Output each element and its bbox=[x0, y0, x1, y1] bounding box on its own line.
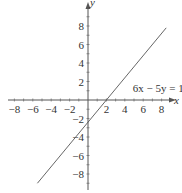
y-tick-label: −8 bbox=[72, 168, 84, 180]
y-tick-label: −4 bbox=[72, 131, 84, 143]
x-tick-label: −4 bbox=[45, 103, 57, 115]
axes bbox=[8, 2, 176, 190]
x-tick-label: 6 bbox=[140, 103, 146, 115]
x-tick-label: 8 bbox=[159, 103, 165, 115]
y-axis-label: y bbox=[89, 0, 95, 8]
equation-label: 6x − 5y = 12 bbox=[133, 82, 182, 94]
y-tick-label: 6 bbox=[79, 39, 85, 51]
y-tick-label: 2 bbox=[79, 76, 85, 88]
y-tick-label: −2 bbox=[72, 113, 84, 125]
x-tick-label: 4 bbox=[122, 103, 128, 115]
x-tick-label: −8 bbox=[9, 103, 21, 115]
x-tick-label: 2 bbox=[104, 103, 110, 115]
y-tick-label: 8 bbox=[79, 20, 85, 32]
y-tick-label: 4 bbox=[79, 57, 85, 69]
x-tick-label: −6 bbox=[27, 103, 39, 115]
x-axis-label: x bbox=[173, 94, 179, 106]
y-tick-label: −6 bbox=[72, 150, 84, 162]
coordinate-plane: −8−6−4−224688642−2−4−6−8 x y 6x − 5y = 1… bbox=[0, 0, 182, 193]
